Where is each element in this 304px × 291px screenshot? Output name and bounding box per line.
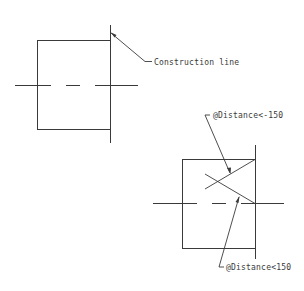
cad-diagram-canvas: Construction line @Distance<-150 @Distan… xyxy=(0,0,304,291)
distance-pos150-leader xyxy=(219,196,240,267)
angled-line-negative-150 xyxy=(205,160,255,190)
leader-arrow-icon xyxy=(227,168,231,175)
leader-arrow-icon xyxy=(236,196,240,203)
construction-line-leader xyxy=(111,33,152,62)
distance-neg150-leader xyxy=(205,115,231,174)
distance-neg150-label: @Distance<-150 xyxy=(213,111,283,120)
bottom-figure: @Distance<-150 @Distance<150 xyxy=(153,111,291,272)
distance-pos150-label: @Distance<150 xyxy=(226,263,291,272)
angled-line-positive-150 xyxy=(205,174,255,204)
construction-line-label: Construction line xyxy=(154,58,239,67)
top-figure: Construction line xyxy=(15,25,239,143)
